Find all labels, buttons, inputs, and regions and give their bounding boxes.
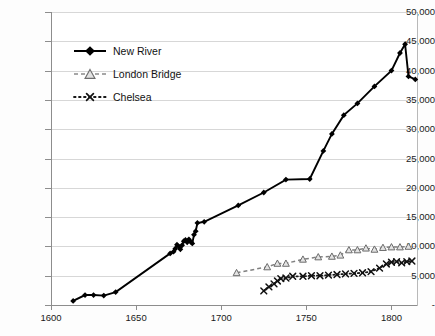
legend-item-london-bridge[interactable]: London Bridge <box>72 62 181 85</box>
series-layer <box>0 0 435 336</box>
chart-container: -5,00010,00015,00020,00025,00030,00035,0… <box>0 0 435 336</box>
chelsea-marker-icon <box>72 90 108 104</box>
legend-label-new-river: New River <box>113 45 161 57</box>
london-bridge-marker-icon <box>72 67 108 81</box>
series-london-bridge <box>233 243 412 276</box>
legend-label-london-bridge: London Bridge <box>113 68 181 80</box>
new-river-marker-icon <box>72 44 108 58</box>
chart-legend: New River London Bridge <box>72 39 181 108</box>
legend-item-chelsea[interactable]: Chelsea <box>72 85 181 108</box>
legend-label-chelsea: Chelsea <box>113 91 152 103</box>
legend-item-new-river[interactable]: New River <box>72 39 181 62</box>
